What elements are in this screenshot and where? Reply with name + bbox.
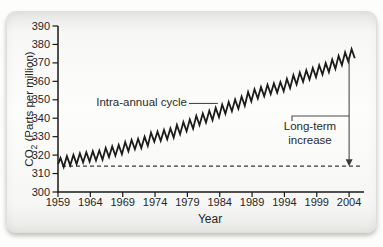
co2-curve: [58, 49, 355, 167]
y-tick-label: 390: [14, 20, 50, 32]
x-tick-label: 1979: [170, 196, 204, 208]
x-tick-label: 1959: [41, 196, 75, 208]
x-tick-label: 1989: [235, 196, 269, 208]
y-tick-label: 320: [14, 149, 50, 161]
x-tick-label: 1984: [203, 196, 237, 208]
x-tick-label: 1964: [73, 196, 107, 208]
axes-lines: [58, 26, 364, 192]
x-tick-label: 1999: [300, 196, 334, 208]
annotation-intra-annual-cycle: Intra-annual cycle: [40, 96, 187, 108]
y-tick-label: 340: [14, 112, 50, 124]
y-tick-label: 310: [14, 167, 50, 179]
x-tick-label: 2004: [332, 196, 366, 208]
y-tick-label: 330: [14, 130, 50, 142]
x-axis-title: Year: [189, 212, 231, 226]
x-tick-label: 1969: [106, 196, 140, 208]
y-tick-label: 380: [14, 38, 50, 50]
x-tick-label: 1994: [267, 196, 301, 208]
y-tick-label: 370: [14, 56, 50, 68]
long-term-arrowhead-icon: [346, 159, 353, 166]
y-tick-label: 360: [14, 75, 50, 87]
annotation-long-term-increase: Long-term increase: [276, 120, 344, 147]
x-tick-label: 1974: [138, 196, 172, 208]
y-tick-label: 350: [14, 93, 50, 105]
